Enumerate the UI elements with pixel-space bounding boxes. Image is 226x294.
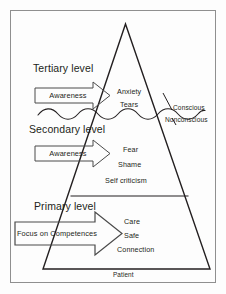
nonconscious-label: Nonconscious [165, 117, 208, 124]
secondary-symptom-shame: Shame [118, 161, 141, 168]
pyramid-diagram: Tertiary level Awareness Anxiety Tears C… [0, 0, 226, 294]
diagram-canvas [0, 0, 226, 294]
secondary-intervention-label: Awareness [42, 150, 94, 157]
tertiary-symptom-tears: Tears [120, 101, 138, 108]
conscious-label: Conscious [173, 105, 205, 112]
primary-symptom-connection: Connection [117, 246, 154, 253]
pyramid-base-label: Patient [113, 272, 134, 278]
primary-intervention-label: Focus on Competences [17, 230, 93, 237]
tertiary-level-title: Tertiary level [33, 63, 93, 74]
primary-symptom-care: Care [124, 218, 140, 225]
tertiary-intervention-label: Awareness [42, 92, 94, 99]
tertiary-symptom-anxiety: Anxiety [117, 88, 141, 95]
primary-symptom-safe: Safe [124, 232, 139, 239]
secondary-symptom-fear: Fear [123, 146, 138, 153]
secondary-level-title: Secondary level [29, 124, 105, 135]
primary-level-title: Primary level [34, 201, 96, 212]
secondary-symptom-self-criticism: Self criticism [105, 177, 147, 184]
conscious-label-leader [163, 93, 172, 110]
